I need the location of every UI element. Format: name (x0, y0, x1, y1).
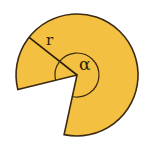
angle-label: α (79, 54, 91, 74)
sector-shape (16, 14, 138, 136)
sector-diagram: r α (0, 0, 143, 150)
radius-label: r (46, 31, 54, 49)
